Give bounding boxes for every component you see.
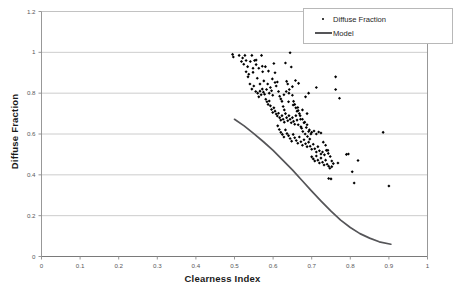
data-point	[289, 137, 292, 140]
x-tick-label: 0.3	[145, 262, 169, 269]
data-point	[262, 79, 265, 82]
data-point	[294, 79, 297, 82]
data-point	[332, 162, 335, 165]
data-point	[305, 126, 308, 129]
data-point	[282, 136, 285, 139]
data-point	[290, 121, 293, 124]
data-point	[316, 159, 319, 162]
data-point	[304, 132, 307, 135]
y-tick-label: 1	[10, 48, 36, 55]
data-point	[273, 71, 276, 74]
data-point	[310, 148, 313, 151]
data-point	[285, 80, 288, 83]
x-tick-label: 0.6	[261, 262, 285, 269]
data-point	[286, 119, 289, 122]
data-point	[329, 177, 332, 180]
data-point	[269, 104, 272, 107]
data-point	[270, 89, 273, 92]
data-point	[291, 85, 294, 88]
x-axis-title: Clearness Index	[0, 273, 445, 284]
data-point	[250, 88, 253, 91]
data-point	[324, 159, 327, 162]
data-point	[284, 61, 287, 64]
data-point	[284, 112, 287, 115]
data-point	[299, 140, 302, 143]
data-point	[271, 77, 274, 80]
data-point	[242, 63, 245, 66]
data-point	[306, 123, 309, 126]
data-point	[315, 86, 318, 89]
x-tick-label: 0.8	[338, 262, 362, 269]
data-point	[318, 149, 321, 152]
data-point	[246, 75, 249, 78]
chart-legend: Diffuse Fraction Model	[303, 8, 453, 44]
data-point	[327, 177, 330, 180]
data-point	[276, 124, 279, 127]
data-point	[251, 67, 254, 70]
data-point	[324, 144, 327, 147]
data-point	[288, 88, 291, 91]
data-point	[240, 60, 243, 63]
data-point	[273, 81, 276, 84]
data-point	[249, 60, 252, 63]
data-point	[248, 82, 251, 85]
data-point	[304, 95, 307, 98]
data-point	[280, 114, 283, 117]
data-point	[382, 131, 385, 134]
y-tick-label: 1.2	[10, 8, 36, 15]
data-point	[315, 132, 318, 135]
data-point	[334, 88, 337, 91]
x-tick-label: 0.2	[107, 262, 131, 269]
x-tick-label: 0.7	[300, 262, 324, 269]
data-point	[283, 121, 286, 124]
data-point	[285, 116, 288, 119]
data-point	[322, 141, 325, 144]
x-tick-label: 0.9	[377, 262, 401, 269]
data-point	[241, 57, 244, 60]
data-point	[289, 51, 292, 54]
y-tick-label: 0.6	[10, 130, 36, 137]
data-point	[278, 128, 281, 131]
data-point	[268, 92, 271, 95]
data-point	[336, 161, 339, 164]
data-point	[293, 136, 296, 139]
legend-label-model: Model	[333, 29, 354, 38]
data-point	[245, 59, 248, 62]
legend-item-diffuse-fraction: Diffuse Fraction	[304, 12, 452, 26]
data-point	[282, 105, 285, 108]
scatter-series-diffuse-fraction	[231, 51, 390, 187]
x-tick-label: 0	[30, 262, 54, 269]
data-point	[387, 185, 390, 188]
data-point	[272, 62, 275, 65]
data-point	[252, 84, 255, 87]
data-point	[273, 110, 276, 113]
data-point	[245, 70, 248, 73]
data-point	[334, 75, 337, 78]
data-point	[318, 161, 321, 164]
data-point	[251, 71, 254, 74]
model-curve	[235, 119, 391, 244]
data-point	[243, 54, 246, 57]
data-point	[261, 65, 264, 68]
data-point	[323, 153, 326, 156]
data-point	[284, 128, 287, 131]
data-point	[292, 100, 295, 103]
data-point	[261, 70, 264, 73]
data-point	[298, 136, 301, 139]
data-point	[257, 67, 260, 70]
data-point	[297, 123, 300, 126]
diamond-marker-icon	[313, 18, 333, 21]
data-point	[319, 157, 322, 160]
data-point	[304, 142, 307, 145]
data-point	[289, 118, 292, 121]
x-tick-label: 1	[416, 262, 440, 269]
data-point	[301, 118, 304, 121]
data-point	[283, 108, 286, 111]
data-point	[315, 150, 318, 153]
y-tick-label: 0.8	[10, 89, 36, 96]
data-point	[264, 65, 267, 68]
data-point	[297, 82, 300, 85]
data-point	[247, 73, 250, 76]
data-point	[290, 65, 293, 68]
